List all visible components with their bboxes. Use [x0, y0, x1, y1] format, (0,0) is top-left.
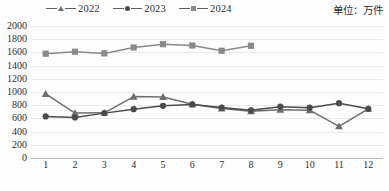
y-tick-label: 1200 — [7, 74, 27, 84]
data-point-2023 — [160, 103, 166, 109]
data-point-2024 — [189, 42, 195, 48]
data-point-2022 — [42, 90, 50, 97]
data-point-2023 — [131, 106, 137, 112]
x-axis-labels: 123456789101112 — [31, 160, 383, 176]
y-axis-labels: 0200400600800100012001400160018002000 — [0, 26, 29, 158]
x-tick-label: 1 — [43, 160, 48, 170]
unit-label: 单位：万件 — [333, 2, 383, 17]
data-point-2024 — [101, 50, 107, 56]
data-point-2024 — [248, 43, 254, 49]
data-point-2022 — [335, 122, 343, 129]
data-point-2023 — [101, 110, 107, 116]
x-tick-label: 7 — [219, 160, 224, 170]
y-tick-label: 2000 — [7, 21, 27, 31]
legend-line-icon — [46, 8, 57, 10]
legend-label-2024: 2024 — [210, 3, 232, 14]
series-line-2022 — [46, 94, 369, 126]
legend-line-icon — [179, 8, 190, 10]
circle-marker-icon — [125, 6, 130, 11]
x-tick-label: 11 — [334, 160, 344, 170]
y-tick-label: 200 — [12, 140, 27, 150]
legend-line-icon — [197, 8, 208, 10]
legend-line-icon — [65, 8, 76, 10]
legend-label-2022: 2022 — [78, 3, 100, 14]
x-tick-label: 3 — [102, 160, 107, 170]
x-tick-label: 10 — [305, 160, 315, 170]
y-tick-label: 600 — [12, 113, 27, 123]
data-point-2023 — [307, 105, 313, 111]
data-point-2024 — [160, 41, 166, 47]
legend-item-2024[interactable]: 2024 — [179, 3, 232, 14]
data-point-2023 — [277, 104, 283, 110]
data-point-2024 — [219, 48, 225, 54]
triangle-marker-icon — [58, 6, 64, 11]
y-tick-label: 400 — [12, 127, 27, 137]
series-layer — [31, 26, 383, 158]
legend-label-2023: 2023 — [144, 3, 166, 14]
x-tick-label: 2 — [73, 160, 78, 170]
line-chart: 2022 2023 2024 单位：万件 0200400600800100012… — [0, 0, 389, 191]
data-point-2024 — [72, 49, 78, 55]
x-tick-label: 9 — [278, 160, 283, 170]
y-tick-label: 800 — [12, 100, 27, 110]
legend-item-2023[interactable]: 2023 — [113, 3, 166, 14]
legend-line-icon — [131, 8, 142, 10]
data-point-2023 — [72, 114, 78, 120]
data-point-2024 — [131, 44, 137, 50]
legend-line-icon — [113, 8, 124, 10]
data-point-2023 — [43, 113, 49, 119]
data-point-2023 — [219, 104, 225, 110]
x-tick-label: 8 — [249, 160, 254, 170]
gridline — [31, 158, 383, 159]
square-marker-icon — [191, 6, 196, 11]
x-tick-label: 6 — [190, 160, 195, 170]
plot-area — [31, 26, 383, 158]
data-point-2023 — [365, 106, 371, 112]
y-tick-label: 1400 — [7, 61, 27, 71]
data-point-2023 — [248, 107, 254, 113]
data-point-2024 — [43, 51, 49, 57]
y-tick-label: 1800 — [7, 34, 27, 44]
x-tick-label: 12 — [363, 160, 373, 170]
y-tick-label: 1000 — [7, 87, 27, 97]
data-point-2023 — [336, 100, 342, 106]
legend-item-2022[interactable]: 2022 — [46, 3, 100, 14]
y-tick-label: 1600 — [7, 47, 27, 57]
x-tick-label: 4 — [131, 160, 136, 170]
y-tick-label: 0 — [22, 153, 27, 163]
data-point-2023 — [189, 101, 195, 107]
x-tick-label: 5 — [161, 160, 166, 170]
chart-legend: 2022 2023 2024 — [46, 3, 232, 14]
